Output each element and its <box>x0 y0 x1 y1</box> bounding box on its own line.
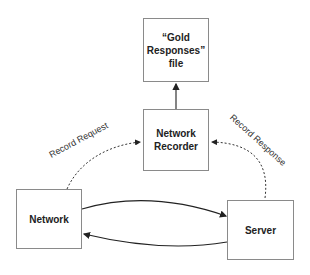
record-response-arrow <box>212 142 266 198</box>
server-label: Server <box>245 224 276 237</box>
recorder-label-line1: Network <box>154 127 198 140</box>
recorder-label-line2: Recorder <box>154 140 198 153</box>
server-to-network-arrow <box>84 234 227 246</box>
network-label: Network <box>29 213 68 226</box>
network-recorder-node: Network Recorder <box>143 109 209 171</box>
server-node: Server <box>227 200 294 260</box>
gold-label-line3: file <box>147 57 205 70</box>
gold-label-line1: “Gold <box>147 31 205 44</box>
gold-responses-file-node: “Gold Responses” file <box>143 18 209 82</box>
record-request-arrow <box>67 142 140 189</box>
gold-label-line2: Responses” <box>147 44 205 57</box>
network-node: Network <box>16 189 82 249</box>
network-to-server-arrow <box>82 201 226 216</box>
